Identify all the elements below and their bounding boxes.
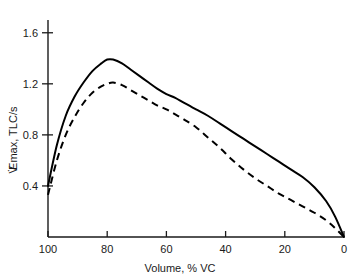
y-tick-label: 0.4 xyxy=(23,180,38,192)
x-tick-label: 20 xyxy=(279,243,291,255)
y-tick-label: 1.6 xyxy=(23,27,38,39)
y-tick-label: 1.2 xyxy=(23,78,38,90)
y-axis-title: V·Emax, TLC/s xyxy=(2,106,20,173)
x-tick-label: 60 xyxy=(160,243,172,255)
x-axis-title: Volume, % VC xyxy=(145,262,216,274)
data-series-group xyxy=(48,59,344,237)
solid-curve-path xyxy=(48,59,344,237)
x-tick-label: 40 xyxy=(219,243,231,255)
x-tick-label: 0 xyxy=(341,243,347,255)
x-tick-label: 80 xyxy=(101,243,113,255)
x-axis-ticks: 100806040200 xyxy=(39,231,347,255)
flow-volume-chart-figure: 0.40.81.21.6 100806040200 Volume, % VC V… xyxy=(0,0,361,279)
plot-canvas: 0.40.81.21.6 100806040200 Volume, % VC V… xyxy=(0,0,361,279)
y-tick-label: 0.8 xyxy=(23,129,38,141)
dashed-curve-path xyxy=(48,83,344,237)
x-tick-label: 100 xyxy=(39,243,57,255)
